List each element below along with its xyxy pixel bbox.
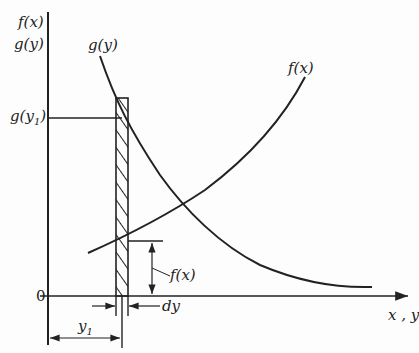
f-x-leader bbox=[152, 268, 170, 276]
diagram-canvas: f(x) g(y) g(y) f(x) g(y1) f(x) dy 0 x , … bbox=[0, 0, 419, 353]
y-axis-label-f: f(x) bbox=[18, 15, 44, 30]
f-x-height-label: f(x) bbox=[170, 268, 196, 283]
g-y1-text: g(y bbox=[10, 107, 34, 125]
g-curve-label: g(y) bbox=[88, 38, 118, 53]
g-y1-label: g(y1) bbox=[10, 109, 46, 127]
g-curve bbox=[100, 56, 372, 287]
y-axis-label-g: g(y) bbox=[14, 37, 44, 52]
f-curve-label: f(x) bbox=[288, 61, 314, 76]
origin-label: 0 bbox=[36, 289, 46, 304]
y1-subscript: 1 bbox=[86, 326, 92, 337]
diagram-graphics bbox=[0, 0, 419, 353]
hatched-strip bbox=[116, 98, 128, 296]
dy-label: dy bbox=[162, 299, 180, 314]
g-y1-close: ) bbox=[40, 107, 46, 125]
y1-label: y1 bbox=[78, 319, 93, 337]
x-axis-label: x , y bbox=[388, 308, 419, 323]
